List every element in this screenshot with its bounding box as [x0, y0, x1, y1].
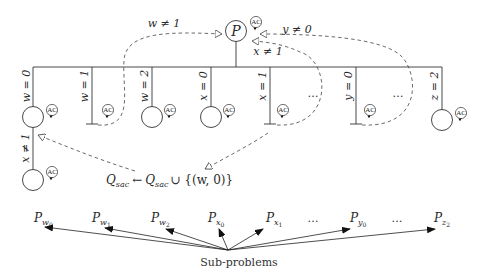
ac-badge-icon: [223, 104, 234, 118]
subproblem-arrows: [45, 227, 435, 250]
ac-badge-icon: [46, 104, 57, 118]
q-symbol: Q: [106, 173, 116, 187]
ac-badge-icon: [102, 104, 113, 118]
arrow-to-update: [205, 133, 268, 169]
subproblem-labels: Pw0 Pw1 Pw2 Px0 Px1 … Py0 … Pz2: [33, 211, 450, 228]
subproblem-label: Px1: [265, 211, 282, 228]
subproblem-label: Px0: [207, 211, 225, 228]
ac-badge-icon: [46, 166, 57, 180]
branch-label: x = 0: [197, 71, 210, 100]
branch-label: x ≠ 1: [19, 133, 32, 162]
ac-badge-icon: [455, 107, 466, 121]
branch-label: w = 2: [138, 70, 151, 103]
ellipsis: …: [308, 87, 319, 100]
subproblem-label: Pw0: [33, 211, 53, 228]
branch-label: w = 0: [20, 70, 33, 103]
subproblem-label: Pw2: [150, 211, 170, 228]
q-symbol: Q: [145, 173, 155, 187]
root-node: P: [226, 21, 247, 42]
ellipsis: …: [393, 87, 404, 100]
assign-arrow: ←: [132, 173, 142, 187]
q-subscript: sac: [155, 180, 169, 189]
child-node: [432, 110, 453, 131]
subproblem-label: Pz2: [433, 211, 450, 228]
second-level-branch: x ≠ 1: [19, 128, 58, 191]
child-node: [23, 107, 44, 128]
branch-x0: x = 0: [197, 67, 235, 128]
branch-label: w = 1: [78, 70, 91, 103]
subproblems-caption: Sub-problems: [200, 256, 278, 269]
union-expression: ∪ {(w, 0)}: [170, 173, 233, 187]
subproblem-label: Pw1: [91, 211, 111, 228]
arrow-label: y ≠ 0: [281, 23, 311, 36]
branch-w2: w = 2: [138, 67, 176, 128]
update-formula: Qsac←Qsac∪ {(w, 0)}: [106, 173, 233, 189]
branch-z2: z = 2: [428, 67, 467, 131]
branch-label: z = 2: [428, 71, 441, 101]
svg-text:Qsac←Qsac∪ {(w, 0)}: Qsac←Qsac∪ {(w, 0)}: [106, 173, 233, 189]
q-subscript: sac: [116, 180, 130, 189]
ellipsis: …: [392, 212, 403, 225]
branch-w0: w = 0: [20, 67, 58, 128]
arrow-label: x ≠ 1: [253, 45, 282, 58]
ac-badge-icon: [364, 104, 375, 118]
branch-label: x = 1: [256, 71, 269, 100]
search-tree-diagram: AC P w = 0 w = 1 w = 2 x = 0: [0, 0, 481, 277]
branch-w1: w = 1: [78, 67, 114, 124]
child-node: [23, 170, 44, 191]
ac-badge-icon: [164, 104, 175, 118]
child-node: [142, 107, 163, 128]
branch-label: y = 0: [342, 71, 355, 101]
ellipsis: …: [308, 212, 319, 225]
child-node: [201, 107, 222, 128]
branch-x1: x = 1: [256, 67, 289, 124]
ac-badge-icon: [250, 16, 261, 30]
root-label: P: [230, 23, 241, 39]
ac-badge-icon: [277, 104, 288, 118]
arrow-to-second-level: [38, 135, 135, 171]
subproblem-label: Py0: [349, 211, 367, 228]
arrow-label: w ≠ 1: [148, 17, 181, 30]
branch-y0: y = 0: [342, 67, 376, 124]
